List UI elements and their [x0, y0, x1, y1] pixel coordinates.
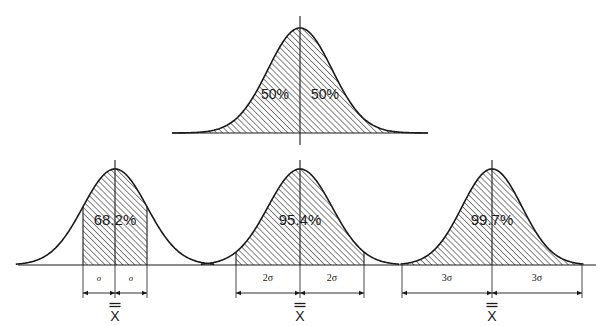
sigma-dimension-label: 2σ	[263, 272, 274, 283]
mean-label: X	[487, 308, 497, 324]
mean-label: X	[295, 308, 305, 324]
sigma-dimension-label: 2σ	[327, 272, 338, 283]
sigma-dimension-label: σ	[129, 273, 134, 283]
area-percentage-label: 68.2%	[94, 211, 137, 228]
area-percentage-label: 95.4%	[279, 211, 322, 228]
area-percentage-label: 99.7%	[471, 211, 514, 228]
sigma-dimension-label: 3σ	[532, 272, 543, 283]
area-percentage-label: 50%	[261, 86, 289, 102]
sigma-dimension-label: σ	[97, 273, 102, 283]
mean-label: X	[110, 308, 120, 324]
sigma-dimension-label: 3σ	[442, 272, 453, 283]
area-percentage-label: 50%	[311, 86, 339, 102]
normal-distribution-figure: 50%50%68.2%σσX95.4%2σ2σX99.7%3σ3σX	[0, 0, 602, 325]
